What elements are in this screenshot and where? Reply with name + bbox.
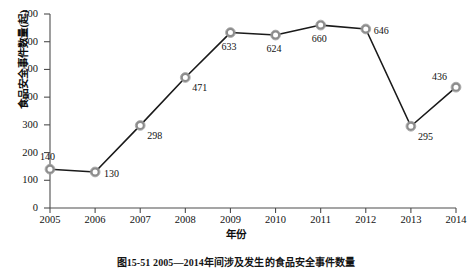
- x-tick-label: 2006: [72, 215, 118, 226]
- y-tick-label: 200: [4, 148, 38, 159]
- y-axis-ticks: [44, 14, 50, 208]
- data-point-label: 646: [374, 26, 389, 36]
- x-tick-label: 2007: [117, 215, 163, 226]
- x-tick-label: 2009: [207, 215, 253, 226]
- y-tick-label: 100: [4, 175, 38, 186]
- data-point-label: 624: [267, 44, 282, 54]
- x-tick-label: 2012: [343, 215, 389, 226]
- x-tick-label: 2011: [298, 215, 344, 226]
- x-tick-label: 2008: [162, 215, 208, 226]
- data-point-label: 130: [104, 169, 119, 179]
- y-tick-label: 700: [4, 9, 38, 20]
- data-point-label: 295: [418, 132, 433, 142]
- x-tick-label: 2005: [27, 215, 73, 226]
- figure-caption: 图15-51 2005—2014年间涉及发生的食品安全事件数量: [0, 254, 472, 269]
- x-tick-label: 2014: [433, 215, 472, 226]
- data-point-label: 298: [147, 131, 162, 141]
- y-tick-label: 0: [4, 203, 38, 214]
- y-tick-label: 600: [4, 37, 38, 48]
- x-tick-label: 2010: [253, 215, 299, 226]
- x-axis-ticks: [50, 208, 456, 213]
- data-point-label: 633: [221, 42, 236, 52]
- data-point-label: 471: [192, 83, 207, 93]
- data-point-label: 436: [432, 72, 447, 82]
- data-point-label: 140: [40, 152, 55, 162]
- x-tick-label: 2013: [388, 215, 434, 226]
- y-tick-label: 500: [4, 64, 38, 75]
- series-line: [50, 25, 456, 172]
- y-tick-label: 300: [4, 120, 38, 131]
- y-tick-label: 400: [4, 92, 38, 103]
- data-point-label: 660: [312, 34, 327, 44]
